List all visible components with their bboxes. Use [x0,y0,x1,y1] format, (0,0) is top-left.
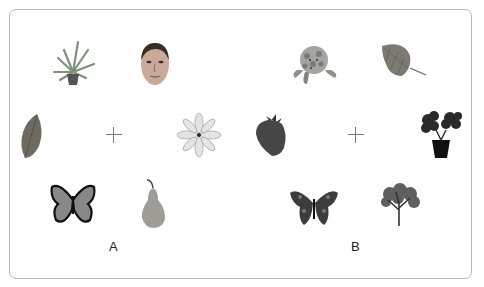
potted-plant-icon [418,110,464,160]
tree-icon [376,182,422,228]
pear-icon [138,178,168,230]
potted-plant-icon [48,36,98,86]
flower-cluster-icon [289,40,339,86]
leaf-icon [19,112,45,160]
flower-icon [176,113,222,157]
leaf-icon [380,42,430,82]
butterfly-icon [288,189,340,227]
panel-b-label: B [351,239,360,254]
strawberry-icon [254,112,290,158]
fixation-cross-b [348,127,364,143]
panel-a-label: A [109,239,118,254]
butterfly-icon [50,184,96,226]
fixation-cross-a [106,127,122,143]
face-icon [138,40,172,88]
